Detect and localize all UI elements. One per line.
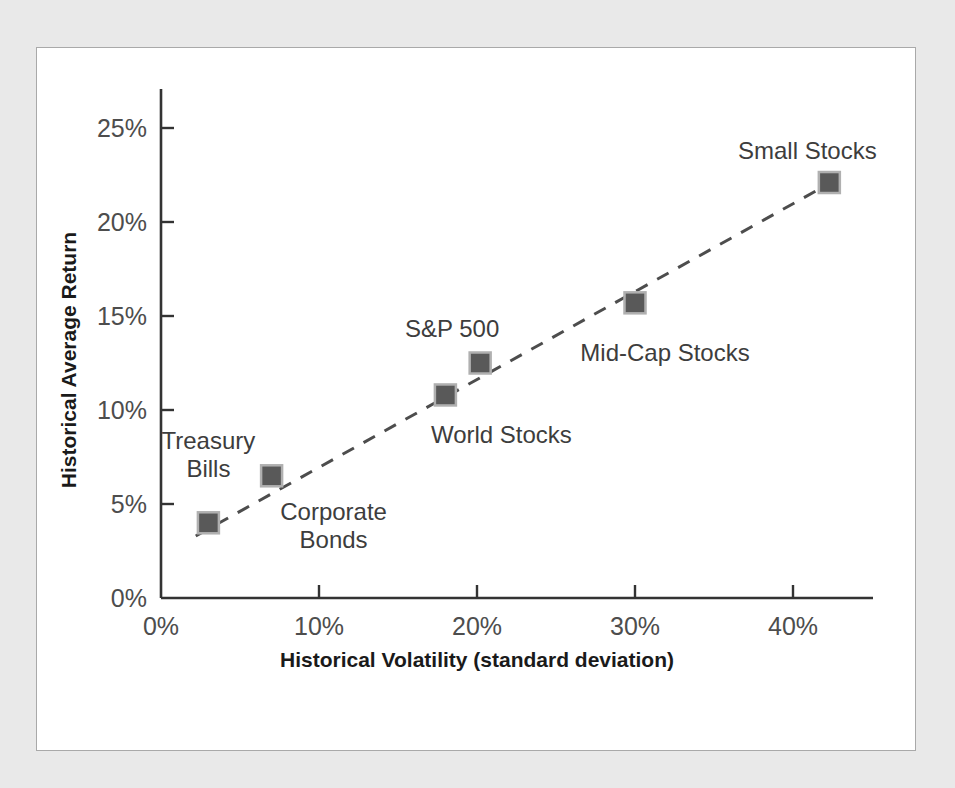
- x-tick-label: 0%: [143, 612, 179, 641]
- data-point-label: Small Stocks: [738, 137, 877, 165]
- data-point-label: World Stocks: [431, 421, 572, 449]
- data-point-marker: [470, 353, 491, 374]
- x-tick-label: 30%: [610, 612, 660, 641]
- y-tick-label: 25%: [97, 114, 147, 143]
- axes-group: [161, 89, 873, 598]
- figure-panel: 0%5%10%15%20%25%0%10%20%30%40% Treasury …: [36, 47, 916, 751]
- y-tick-label: 15%: [97, 302, 147, 331]
- y-axis-title: Historical Average Return: [57, 210, 81, 510]
- x-tick-label: 10%: [294, 612, 344, 641]
- data-point-marker: [435, 384, 456, 405]
- data-point-label: Treasury Bills: [161, 427, 255, 483]
- x-axis-title: Historical Volatility (standard deviatio…: [37, 648, 917, 672]
- data-point-marker: [261, 465, 282, 486]
- x-tick-label: 20%: [452, 612, 502, 641]
- y-tick-label: 20%: [97, 208, 147, 237]
- data-point-label: Mid-Cap Stocks: [580, 339, 749, 367]
- data-point-label: Corporate Bonds: [280, 498, 387, 554]
- y-tick-label: 0%: [111, 584, 147, 613]
- y-tick-label: 10%: [97, 396, 147, 425]
- figure-root: 0%5%10%15%20%25%0%10%20%30%40% Treasury …: [0, 0, 955, 788]
- data-point-marker: [819, 172, 840, 193]
- chart-plot-area: 0%5%10%15%20%25%0%10%20%30%40% Treasury …: [37, 48, 917, 752]
- x-tick-label: 40%: [768, 612, 818, 641]
- data-point-marker: [625, 292, 646, 313]
- data-point-marker: [198, 512, 219, 533]
- data-point-label: S&P 500: [405, 315, 499, 343]
- y-tick-label: 5%: [111, 490, 147, 519]
